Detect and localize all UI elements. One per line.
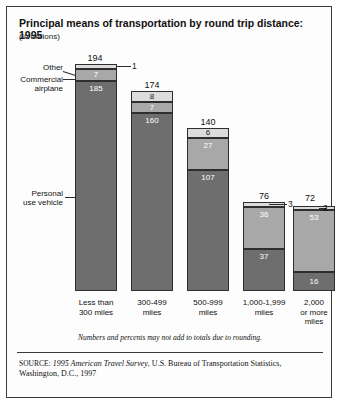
bar-total-4: 76 [238, 191, 290, 201]
figure-frame: Principal means of transportation by rou… [6, 6, 332, 398]
x-axis-label-4-line1: 1,000-1,999 [233, 298, 295, 308]
callout-leader-other-1 [117, 66, 131, 67]
source-note: SOURCE: 1995 American Travel Survey, U.S… [19, 359, 319, 379]
bar-total-1: 194 [69, 53, 121, 63]
bar-total-3: 140 [182, 117, 234, 127]
x-axis-label-4-line2: miles [233, 308, 295, 318]
bar-segment-personal-use-vehicle-3: 107 [187, 170, 229, 291]
bar-300-499-miles[interactable]: 8 7 160 [131, 91, 173, 291]
x-axis-label-3-line1: 500-999 [179, 298, 237, 308]
bar-less-than-300-miles[interactable]: 1 7 185 [75, 64, 117, 291]
bar-segment-commercial-airplane-1: 7 [75, 69, 117, 81]
bar-segment-commercial-airplane-5: 53 [293, 210, 335, 272]
x-axis-label-5-line1: 2,000 [291, 298, 337, 308]
x-axis-label-1-line1: Less than [67, 298, 125, 308]
source-prefix: SOURCE: [19, 359, 51, 368]
bar-1000-1999-miles[interactable]: 3 36 37 [243, 202, 285, 291]
segment-value-personal-use-vehicle-5: 16 [310, 278, 319, 286]
segment-value-personal-use-vehicle-1: 185 [89, 85, 102, 93]
callout-value-other-5: 2 [323, 203, 328, 213]
bar-segment-other-2: 8 [131, 91, 173, 102]
bar-segment-commercial-airplane-4: 36 [243, 207, 285, 249]
bar-total-5: 72 [289, 193, 331, 203]
x-axis-label-4: 1,000-1,999 miles [233, 298, 295, 317]
rounding-note: Numbers and percents may not add to tota… [7, 333, 333, 342]
bar-segment-personal-use-vehicle-4: 37 [243, 249, 285, 291]
bar-segment-personal-use-vehicle-5: 16 [293, 272, 335, 291]
x-axis-label-3: 500-999 miles [179, 298, 237, 317]
segment-value-other-2: 8 [150, 93, 154, 101]
bar-segment-commercial-airplane-2: 7 [131, 102, 173, 113]
x-axis-label-2: 300-499 miles [123, 298, 181, 317]
bar-2000-or-more-miles[interactable]: 2 53 16 [293, 206, 335, 291]
segment-value-commercial-airplane-2: 7 [150, 104, 154, 112]
x-axis-label-5-line2: or more [291, 308, 337, 318]
segment-value-personal-use-vehicle-3: 107 [201, 174, 214, 182]
bar-total-2: 174 [126, 80, 178, 90]
source-divider [17, 352, 323, 353]
segment-value-commercial-airplane-5: 53 [310, 214, 319, 222]
x-axis-label-5: 2,000 or more miles [291, 298, 337, 327]
segment-value-personal-use-vehicle-2: 160 [145, 117, 158, 125]
bar-segment-personal-use-vehicle-2: 160 [131, 113, 173, 291]
bar-segment-personal-use-vehicle-1: 185 [75, 81, 117, 291]
callout-leader-other-4 [269, 204, 287, 205]
legend-label-personal-use-vehicle-line2: use vehicle [9, 198, 63, 208]
bar-segment-commercial-airplane-3: 27 [187, 138, 229, 170]
segment-value-other-3: 6 [206, 129, 210, 137]
segment-value-commercial-airplane-1: 7 [94, 71, 98, 79]
segment-value-commercial-airplane-4: 36 [260, 211, 269, 219]
x-axis-label-3-line2: miles [179, 308, 237, 318]
segment-value-personal-use-vehicle-4: 37 [260, 253, 269, 261]
x-axis-label-2-line1: 300-499 [123, 298, 181, 308]
x-axis-label-5-line3: miles [291, 317, 337, 327]
bar-500-999-miles[interactable]: 6 27 107 [187, 128, 229, 291]
callout-value-other-1: 1 [132, 61, 137, 71]
bar-segment-other-3: 6 [187, 128, 229, 138]
x-axis-label-2-line2: miles [123, 308, 181, 318]
source-title: 1995 American Travel Survey [53, 359, 148, 368]
legend-label-other: Other [15, 63, 63, 73]
segment-value-commercial-airplane-3: 27 [204, 142, 213, 150]
legend-label-commercial-airplane-line2: airplane [9, 84, 63, 94]
x-axis-label-1: Less than 300 miles [67, 298, 125, 317]
x-axis-label-1-line2: 300 miles [67, 308, 125, 318]
